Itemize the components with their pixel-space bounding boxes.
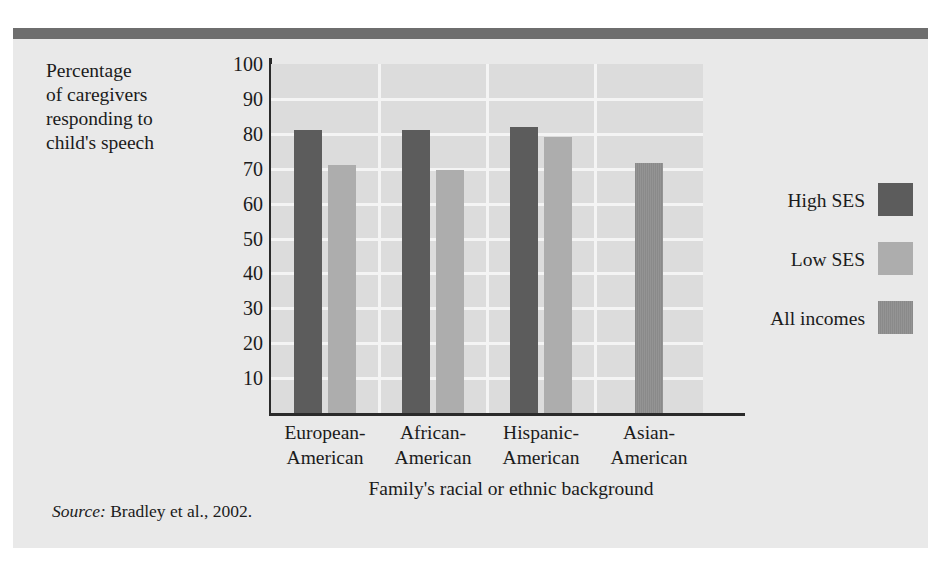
bar-hispanic-american-high-ses: [510, 127, 538, 413]
source-label: Source:: [52, 501, 106, 521]
x-tick-label-european-american: European- American: [271, 420, 379, 470]
y-tick-label-100: 100: [219, 54, 263, 74]
y-tick-label-70: 70: [219, 159, 263, 179]
legend-swatch-2: [878, 301, 913, 334]
legend-label-1: Low SES: [791, 249, 865, 271]
x-axis-line: [269, 413, 745, 416]
legend-swatch-1: [878, 242, 913, 275]
y-tick-label-80: 80: [219, 124, 263, 144]
y-tick-label-30: 30: [219, 298, 263, 318]
figure-top-rule: [13, 28, 928, 39]
bar-african-american-low-ses: [436, 170, 464, 413]
y-tick-label-60: 60: [219, 194, 263, 214]
source-note: Source: Bradley et al., 2002.: [52, 501, 252, 522]
plot-area: [271, 64, 703, 413]
chart-legend: High SESLow SESAll incomes: [753, 183, 913, 360]
x-tick-label-african-american: African- American: [379, 420, 487, 470]
x-tick-label-asian-american: Asian- American: [595, 420, 703, 470]
legend-label-2: All incomes: [770, 308, 865, 330]
y-tick-label-40: 40: [219, 263, 263, 283]
x-tick-label-hispanic-american: Hispanic- American: [487, 420, 595, 470]
category-separator-1: [378, 64, 381, 413]
legend-swatch-0: [878, 183, 913, 216]
x-axis-category-labels: European- AmericanAfrican- AmericanHispa…: [271, 420, 751, 478]
figure-panel: Percentage of caregivers responding to c…: [13, 28, 928, 548]
bar-african-american-high-ses: [402, 130, 430, 413]
bar-european-american-low-ses: [328, 165, 356, 413]
y-axis-caption: Percentage of caregivers responding to c…: [46, 59, 216, 155]
y-axis-tick-labels: 100908070605040302010: [211, 28, 263, 448]
legend-item-high-ses: High SES: [753, 183, 913, 221]
y-tick-label-10: 10: [219, 368, 263, 388]
y-tick-label-20: 20: [219, 333, 263, 353]
y-tick-label-90: 90: [219, 89, 263, 109]
bar-hispanic-american-low-ses: [544, 137, 572, 413]
legend-label-0: High SES: [788, 190, 865, 212]
x-axis-title: Family's racial or ethnic background: [271, 478, 751, 500]
y-tick-label-50: 50: [219, 229, 263, 249]
bar-asian-american-all-incomes: [635, 163, 663, 413]
source-citation: Bradley et al., 2002.: [106, 501, 252, 521]
bar-european-american-high-ses: [294, 130, 322, 413]
category-separator-3: [594, 64, 597, 413]
legend-item-low-ses: Low SES: [753, 242, 913, 280]
category-separator-2: [486, 64, 489, 413]
legend-item-all-incomes: All incomes: [753, 301, 913, 339]
